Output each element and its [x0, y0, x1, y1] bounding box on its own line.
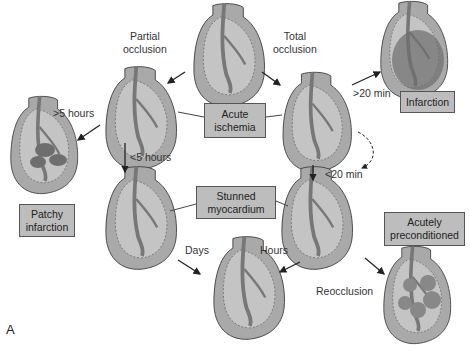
ischemia-outcomes-diagram: Partialocclusion Totalocclusion >20 min …: [0, 0, 470, 352]
label-lt5hours: <5 hours: [130, 151, 171, 164]
box-acute-ischemia: Acuteischemia: [204, 103, 266, 138]
diagram-artwork: [0, 0, 470, 352]
label-days: Days: [185, 244, 209, 257]
heart-preconditioned: [384, 246, 451, 343]
heart-infarction: [381, 1, 448, 98]
label-reocclusion: Reocclusion: [316, 285, 373, 298]
panel-label: A: [6, 322, 15, 337]
label-hours: Hours: [260, 244, 288, 257]
label-gt5hours: >5 hours: [53, 107, 94, 120]
label-total-occlusion: Totalocclusion: [273, 30, 317, 56]
box-patchy-infarction: Patchyinfarction: [19, 204, 75, 237]
label-partial-occlusion: Partialocclusion: [123, 30, 167, 56]
heart-stunned-left: [106, 167, 177, 270]
label-lt20min: <20 min: [325, 168, 363, 181]
box-acutely-preconditioned: Acutelypreconditioned: [384, 212, 465, 246]
heart-total: [283, 72, 351, 171]
box-stunned-myocardium: Stunnedmyocardium: [196, 186, 276, 219]
label-gt20min: >20 min: [353, 87, 391, 100]
heart-normal-top: [194, 4, 265, 107]
heart-stunned-right: [282, 167, 353, 270]
box-infarction: Infarction: [400, 91, 455, 113]
